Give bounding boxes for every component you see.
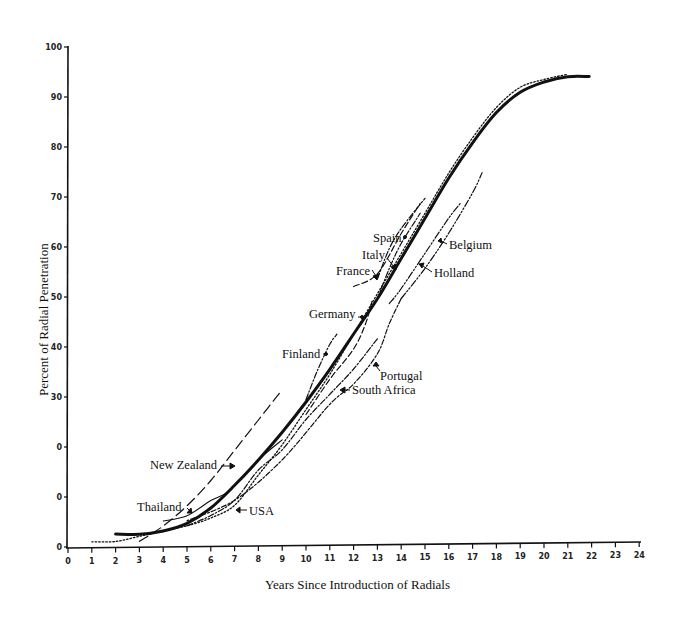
label-south-africa: South Africa [352,383,416,397]
y-tick-label: 100 [45,43,62,52]
x-tick-label: 19 [515,552,527,561]
x-tick-labels: 0123456789101112131415161718192021222324 [65,551,645,566]
label-belgium: Belgium [449,238,492,252]
y-tick-label: 40 [51,343,63,352]
y-tick-label: 60 [51,243,63,252]
x-tick-label: 0 [65,557,71,566]
y-tick-label: 0 [56,443,62,452]
y-tick-label: 30 [51,393,63,402]
x-tick-label: 3 [137,556,143,565]
x-tick-label: 10 [300,555,312,564]
x-tick-label: 24 [634,551,646,560]
axes [64,46,641,553]
x-tick-label: 8 [256,555,262,564]
y-tick-label: 50 [51,293,63,302]
label-germany: Germany [309,307,356,321]
y-tick-label: 0 [56,543,62,552]
y-tick-label: 0 [56,493,62,502]
series-portugal [187,299,401,521]
x-tick-label: 16 [443,553,455,562]
x-tick-label: 21 [562,552,574,561]
label-portugal: Portugal [380,369,423,383]
y-tick-label: 70 [51,193,63,202]
x-tick-label: 4 [160,556,166,565]
label-finland: Finland [282,347,321,361]
x-tick-label: 14 [396,554,408,563]
y-tick-label: 80 [51,143,63,152]
x-tick-label: 22 [586,552,597,561]
x-tick-label: 20 [538,552,550,561]
x-tick-label: 6 [208,556,214,565]
x-tick-label: 5 [184,556,190,565]
radial-penetration-chart: New Zealand Thailand USA Finland South A… [0,0,683,623]
label-usa: USA [249,504,274,518]
x-tick-label: 9 [279,555,285,564]
x-tick-label: 7 [232,555,238,564]
x-tick-label: 15 [419,553,431,562]
x-tick-label: 18 [491,553,503,562]
x-tick-label: 11 [324,554,336,563]
label-holland: Holland [434,266,475,280]
label-france: France [336,264,370,278]
x-tick-label: 23 [610,551,621,560]
label-spain: Spain [373,231,402,245]
y-tick-label: 90 [51,93,63,102]
x-tick-label: 13 [372,554,383,563]
x-axis-title: Years Since Introduction of Radials [265,577,450,592]
y-axis-title: Percent of Radial Penetration [36,243,51,396]
annotation-labels: New Zealand Thailand USA Finland South A… [137,231,492,518]
label-new-zealand: New Zealand [150,458,218,472]
x-tick-label: 1 [89,557,95,566]
x-tick-label: 12 [348,554,359,563]
label-italy: Italy [362,248,386,262]
x-tick-label: 2 [113,557,119,566]
label-thailand: Thailand [137,500,182,514]
x-tick-label: 17 [467,553,478,562]
